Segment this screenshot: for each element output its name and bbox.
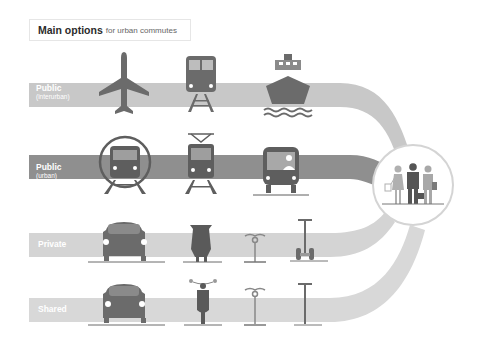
row-label-public-interurban: Public (interurban) xyxy=(36,84,70,101)
band-private xyxy=(29,212,395,257)
row-label: Public xyxy=(36,83,62,93)
diagram-canvas xyxy=(0,0,485,342)
row-sublabel: (urban) xyxy=(36,172,62,180)
row-label-shared: Shared xyxy=(38,305,67,314)
tram-icon xyxy=(185,134,217,194)
ship-icon xyxy=(264,54,312,117)
row-label-public-urban: Public (urban) xyxy=(36,163,62,180)
row-label: Public xyxy=(36,162,62,172)
row-label: Private xyxy=(38,239,66,249)
row-label-private: Private xyxy=(38,240,66,249)
row-sublabel: (interurban) xyxy=(36,93,70,101)
row-label: Shared xyxy=(38,304,67,314)
